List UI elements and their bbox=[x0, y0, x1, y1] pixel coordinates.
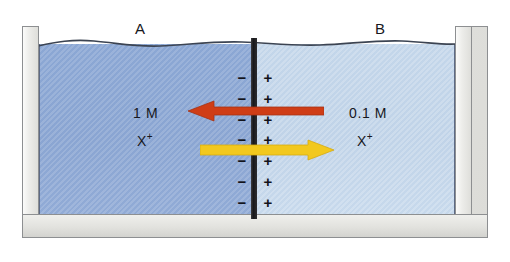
plus-icon: + bbox=[264, 174, 273, 189]
vessel-wall-left bbox=[22, 26, 39, 222]
semipermeable-membrane bbox=[251, 38, 257, 219]
minus-icon: − bbox=[238, 174, 247, 189]
compartment-label-a: A bbox=[135, 20, 146, 37]
diagram-canvas: − − − − − − − + + + + + + + A B 1 M X+ 0… bbox=[0, 0, 510, 262]
electrical-force-arrow-icon bbox=[188, 100, 324, 122]
concentration-label-a: 1 M bbox=[133, 105, 158, 121]
ion-symbol-b: X bbox=[357, 133, 367, 149]
plus-icon: + bbox=[264, 70, 273, 85]
vessel-wall-right bbox=[455, 26, 472, 222]
liquid-compartment-a bbox=[39, 44, 255, 216]
plus-icon: + bbox=[264, 195, 273, 210]
ion-label-a: X+ bbox=[137, 133, 153, 149]
ion-charge-b: + bbox=[367, 131, 373, 142]
concentration-force-arrow-icon bbox=[200, 139, 334, 161]
compartment-label-b: B bbox=[375, 20, 386, 37]
ion-symbol-a: X bbox=[137, 133, 147, 149]
ion-charge-a: + bbox=[147, 131, 153, 142]
concentration-label-b: 0.1 M bbox=[349, 105, 387, 121]
ion-label-b: X+ bbox=[357, 133, 373, 149]
minus-icon: − bbox=[238, 195, 247, 210]
liquid-compartment-b bbox=[255, 44, 455, 216]
minus-icon: − bbox=[238, 70, 247, 85]
